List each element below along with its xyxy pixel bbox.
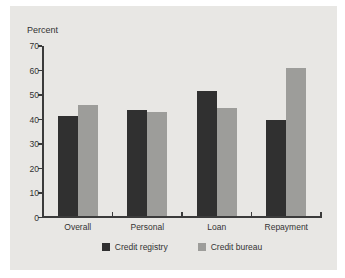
legend-marker-credit-bureau	[198, 243, 206, 251]
legend-entry-credit-bureau: Credit bureau	[198, 242, 263, 252]
chart-page: { "chart_data": { "type": "bar", "title"…	[0, 0, 345, 278]
bar-credit-bureau-personal	[147, 112, 167, 217]
x-category-label-personal: Personal	[113, 222, 183, 232]
y-tick-label-70: 70	[15, 41, 39, 51]
bar-credit-bureau-overall	[78, 105, 98, 218]
x-category-label-loan: Loan	[182, 222, 252, 232]
y-tick-label-10: 10	[15, 188, 39, 198]
y-tick-label-50: 50	[15, 90, 39, 100]
x-category-label-overall: Overall	[43, 222, 113, 232]
x-tick-mark-4	[320, 212, 321, 216]
y-tick-label-60: 60	[15, 66, 39, 76]
x-tick-mark-3	[251, 212, 252, 216]
bar-credit-registry-overall	[58, 116, 78, 218]
y-axis-line	[42, 46, 44, 218]
legend-marker-credit-registry	[102, 243, 110, 251]
y-axis-title: Percent	[27, 25, 58, 35]
x-tick-mark-2	[181, 212, 182, 216]
legend-entry-credit-registry: Credit registry	[102, 242, 168, 252]
bar-credit-registry-loan	[197, 91, 217, 217]
y-tick-label-30: 30	[15, 139, 39, 149]
legend: Credit registryCredit bureau	[43, 242, 321, 252]
y-tick-label-40: 40	[15, 115, 39, 125]
bar-credit-registry-personal	[127, 110, 147, 218]
x-tick-mark-1	[112, 212, 113, 216]
legend-label-credit-bureau: Credit bureau	[211, 242, 263, 252]
y-tick-label-0: 0	[15, 213, 39, 223]
bar-credit-bureau-loan	[217, 108, 237, 217]
bar-credit-bureau-repayment	[286, 68, 306, 217]
bar-credit-registry-repayment	[266, 120, 286, 218]
x-axis-line	[42, 216, 322, 218]
y-tick-label-20: 20	[15, 164, 39, 174]
legend-label-credit-registry: Credit registry	[115, 242, 168, 252]
x-category-label-repayment: Repayment	[252, 222, 322, 232]
